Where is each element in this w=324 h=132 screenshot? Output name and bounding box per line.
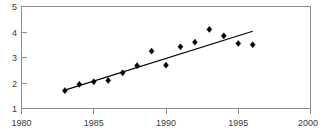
data-point xyxy=(106,77,111,83)
chart-container: 5 4 3 2 1 1980 1985 1990 1995 2000 xyxy=(0,0,324,132)
x-axis-label-1985: 1985 xyxy=(84,118,104,128)
y-axis-label-5: 5 xyxy=(12,2,17,12)
data-point xyxy=(236,40,241,46)
data-point-group xyxy=(62,26,255,93)
y-axis-label-4: 4 xyxy=(12,28,17,38)
data-point xyxy=(163,62,168,68)
data-point xyxy=(62,88,67,94)
x-axis-labels: 1980 1985 1990 1995 2000 xyxy=(11,118,318,128)
y-axis-labels: 5 4 3 2 1 xyxy=(12,2,17,114)
x-axis-label-2000: 2000 xyxy=(298,118,318,128)
data-point xyxy=(207,26,212,32)
data-point xyxy=(221,33,226,39)
data-point xyxy=(91,79,96,85)
scatter-plot: 5 4 3 2 1 1980 1985 1990 1995 2000 xyxy=(0,0,324,132)
x-axis-label-1980: 1980 xyxy=(11,118,31,128)
y-axis-label-1: 1 xyxy=(12,104,17,114)
y-axis-label-3: 3 xyxy=(12,53,17,63)
x-axis-label-1995: 1995 xyxy=(228,118,248,128)
data-point xyxy=(149,48,154,54)
data-point xyxy=(250,42,255,48)
data-point xyxy=(120,70,125,76)
data-point xyxy=(178,44,183,50)
y-axis-ticks xyxy=(22,7,27,109)
y-axis-label-2: 2 xyxy=(12,79,17,89)
data-point xyxy=(192,39,197,45)
x-axis-label-1990: 1990 xyxy=(156,118,176,128)
x-axis-ticks xyxy=(22,109,311,114)
